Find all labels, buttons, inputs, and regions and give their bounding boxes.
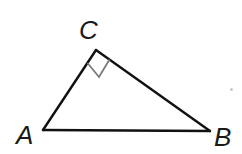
vertex-label-c: C (79, 17, 98, 43)
vertex-label-b: B (214, 124, 231, 150)
artifact-dot (230, 88, 233, 91)
triangle-diagram (0, 0, 242, 154)
side-cb (96, 50, 210, 131)
vertex-label-a: A (16, 122, 33, 148)
side-ac (43, 50, 96, 130)
triangle-abc (43, 50, 210, 131)
side-ab (43, 130, 210, 131)
right-angle-marker (88, 60, 110, 78)
